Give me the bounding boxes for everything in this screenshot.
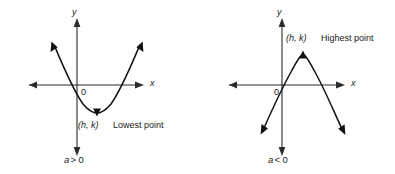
x-axis-up bbox=[29, 82, 144, 89]
y-axis-down bbox=[279, 18, 286, 156]
sign-condition-up: a>0 bbox=[64, 155, 85, 165]
opens-down-graph bbox=[198, 0, 395, 174]
vertex-caption-down: Highest point bbox=[321, 34, 374, 43]
sign-value-down: 0 bbox=[281, 154, 289, 165]
sign-condition-down: a<0 bbox=[268, 155, 289, 165]
vertex-caption-up: Lowest point bbox=[113, 121, 164, 130]
x-axis-down bbox=[229, 82, 345, 89]
parabola-figure: y x 0 (h, k) Lowest point a>0 bbox=[0, 0, 395, 174]
x-axis-label-down: x bbox=[351, 79, 356, 88]
origin-label-down: 0 bbox=[274, 88, 279, 97]
vertex-label-down: (h, k) bbox=[286, 34, 307, 43]
parabola-curve-up bbox=[51, 42, 144, 117]
sign-variable-up: a bbox=[64, 154, 70, 165]
panel-opens-up: y x 0 (h, k) Lowest point a>0 bbox=[0, 0, 197, 174]
vertex-label-up: (h, k) bbox=[78, 121, 99, 130]
sign-variable-down: a bbox=[268, 154, 274, 165]
x-axis-label-up: x bbox=[150, 79, 155, 88]
sign-value-up: 0 bbox=[77, 154, 85, 165]
origin-label-up: 0 bbox=[81, 88, 86, 97]
y-axis-up bbox=[74, 18, 81, 156]
y-axis-label-down: y bbox=[277, 8, 282, 17]
y-axis-label-up: y bbox=[72, 8, 77, 17]
opens-up-graph bbox=[0, 0, 197, 174]
panel-opens-down: y x 0 (h, k) Highest point a<0 bbox=[198, 0, 395, 174]
